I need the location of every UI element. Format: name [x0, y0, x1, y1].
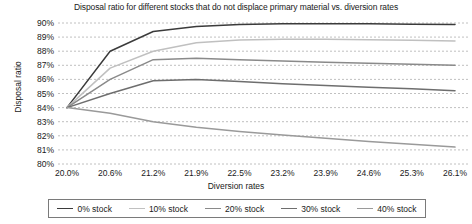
legend-item-label: 0% stock: [77, 204, 112, 214]
y-axis-tick-label: 85%: [37, 89, 54, 99]
y-axis-tick-label: 89%: [37, 32, 54, 42]
legend-item-label: 40% stock: [377, 204, 416, 214]
legend-item[interactable]: 40% stock: [357, 204, 416, 214]
legend-item-label: 30% stock: [301, 204, 340, 214]
y-axis-tick-label: 86%: [37, 74, 54, 84]
legend-item-label: 10% stock: [149, 204, 188, 214]
x-axis-tick-label: 23.2%: [271, 168, 296, 178]
x-axis-tick-label: 25.3%: [400, 168, 425, 178]
x-axis-tick-label: 20.6%: [98, 168, 123, 178]
series-line-3: [67, 79, 455, 107]
x-axis-tick-label: 20.0%: [55, 168, 80, 178]
legend-line-icon: [281, 208, 297, 209]
legend-item[interactable]: 10% stock: [129, 204, 188, 214]
x-axis-tick-label: 23.9%: [314, 168, 339, 178]
legend-item[interactable]: 0% stock: [57, 204, 112, 214]
y-axis-tick-label: 87%: [37, 60, 54, 70]
series-line-4: [67, 108, 455, 147]
chart-container: Disposal ratio for different stocks that…: [0, 0, 472, 224]
x-axis-tick-label: 24.6%: [357, 168, 382, 178]
y-axis-tick-label: 84%: [37, 103, 54, 113]
y-axis-tick-label: 83%: [37, 117, 54, 127]
x-axis-tick-label: 21.9%: [184, 168, 209, 178]
legend-line-icon: [129, 208, 145, 209]
x-axis-tick-label: 26.1%: [443, 168, 468, 178]
y-axis-tick-label: 82%: [37, 131, 54, 141]
y-axis-tick-label: 90%: [37, 18, 54, 28]
legend-item[interactable]: 30% stock: [281, 204, 340, 214]
x-axis-label: Diversion rates: [0, 181, 472, 191]
y-axis-tick-label: 80%: [37, 159, 54, 169]
legend-item-label: 20% stock: [225, 204, 264, 214]
legend-line-icon: [357, 208, 373, 209]
y-axis-tick-label: 81%: [37, 145, 54, 155]
y-axis-tick-label: 88%: [37, 46, 54, 56]
x-axis-tick-label: 21.2%: [141, 168, 166, 178]
x-axis-tick-label: 22.5%: [227, 168, 252, 178]
chart-legend: 0% stock10% stock20% stock30% stock40% s…: [48, 199, 426, 218]
legend-item[interactable]: 20% stock: [205, 204, 264, 214]
legend-line-icon: [205, 208, 221, 209]
series-line-1: [67, 39, 455, 107]
series-line-0: [67, 24, 455, 108]
legend-line-icon: [57, 208, 73, 209]
